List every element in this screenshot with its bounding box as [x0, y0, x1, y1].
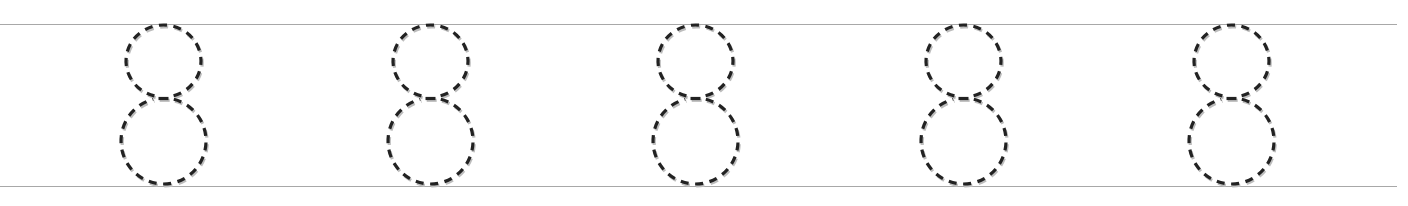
tracing-worksheet-row: 8 8 8 8 8: [0, 0, 1408, 206]
traceable-digit-eight: 8: [380, 0, 480, 206]
traceable-digit-eight: 8: [1181, 0, 1281, 206]
dashed-eight-glyph-icon: [113, 0, 213, 206]
dashed-eight-glyph-icon: [645, 0, 745, 206]
traceable-digit-eight: 8: [113, 0, 213, 206]
traceable-digit-eight: 8: [645, 0, 745, 206]
dashed-eight-glyph-icon: [380, 0, 480, 206]
traceable-digit-eight: 8: [913, 0, 1013, 206]
dashed-eight-glyph-icon: [1181, 0, 1281, 206]
dashed-eight-glyph-icon: [913, 0, 1013, 206]
